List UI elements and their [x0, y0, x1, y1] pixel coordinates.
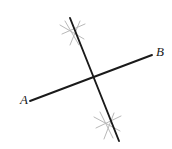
geometry-figure: A B [0, 0, 172, 149]
figure-background [0, 0, 172, 149]
point-label-b: B [156, 45, 164, 58]
point-label-a: A [20, 93, 28, 106]
figure-canvas [0, 0, 172, 149]
